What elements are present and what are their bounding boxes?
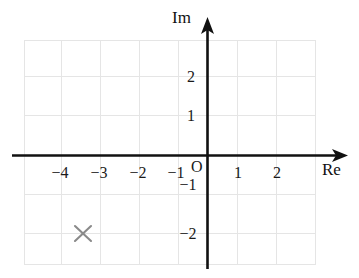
grid-vertical-lines xyxy=(25,40,316,265)
tick-label-im-2: 2 xyxy=(185,69,197,85)
real-axis xyxy=(12,149,348,162)
tick-label-re-2: 2 xyxy=(271,165,283,181)
tick-label-im-minus2: −2 xyxy=(176,226,200,242)
imaginary-axis xyxy=(201,17,214,269)
argand-diagram: Im Re O −4 −3 −2 −1 1 2 2 1 −1 −2 xyxy=(0,0,359,278)
origin-label: O xyxy=(191,159,203,175)
imaginary-axis-label: Im xyxy=(172,9,191,26)
tick-label-im-minus1: −1 xyxy=(176,177,200,193)
tick-label-re-minus3: −3 xyxy=(87,165,111,181)
tick-label-re-minus2: −2 xyxy=(126,165,150,181)
tick-label-re-minus4: −4 xyxy=(48,165,72,181)
tick-label-re-1: 1 xyxy=(232,165,244,181)
tick-label-im-1: 1 xyxy=(185,108,197,124)
grid-horizontal-lines xyxy=(24,41,315,265)
real-axis-label: Re xyxy=(322,161,341,178)
